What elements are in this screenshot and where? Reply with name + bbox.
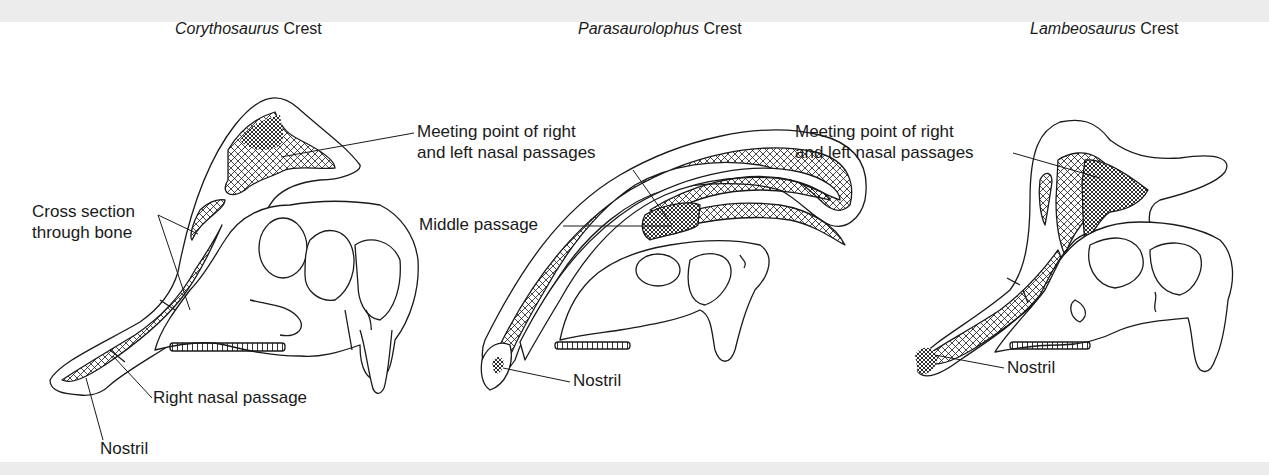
parasaurolophus-label-middle-passage: Middle passage	[419, 214, 538, 235]
corythosaurus-label-right-nasal-passage: Right nasal passage	[153, 387, 307, 408]
label-line: through bone	[32, 222, 135, 243]
lambeosaurus-label-meeting-point: Meeting point of right and left nasal pa…	[795, 121, 974, 163]
lambeosaurus-label-nostril: Nostril	[1007, 357, 1055, 378]
parasaurolophus-label-nostril: Nostril	[573, 370, 621, 391]
corythosaurus-label-nostril: Nostril	[100, 438, 148, 459]
label-line: and left nasal passages	[417, 142, 596, 163]
corythosaurus-label-meeting-point: Meeting point of right and left nasal pa…	[417, 121, 596, 163]
parasaurolophus-skull	[481, 130, 866, 390]
label-line: Cross section	[32, 201, 135, 222]
corythosaurus-label-cross-section: Cross section through bone	[32, 201, 135, 243]
label-line: Meeting point of right	[417, 121, 596, 142]
label-line: Meeting point of right	[795, 121, 974, 142]
label-line: and left nasal passages	[795, 142, 974, 163]
